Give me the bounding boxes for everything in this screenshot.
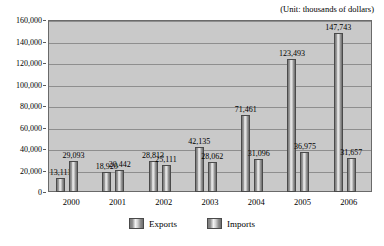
bar-group: 71,46131,096 [233,20,279,192]
y-axis-tick-label: 100,000 [16,80,42,89]
bar-exports-2001[interactable] [102,172,111,192]
bar-value-label: 147,743 [325,23,351,32]
bar-imports-2003[interactable] [208,162,217,192]
x-axis: 2000200120022003200420052006 [48,193,372,209]
bar-value-label: 28,062 [201,152,223,161]
y-axis-tick-label: 20,000 [20,166,42,175]
y-axis-tick-mark [43,85,46,86]
y-axis-tick-mark [43,63,46,64]
y-axis-tick-label: 120,000 [16,59,42,68]
bar-imports-2006[interactable] [347,158,356,192]
bar-group: 42,13528,062 [187,20,233,192]
y-axis-tick-label: 40,000 [20,145,42,154]
bar-value-label: 36,975 [294,142,316,151]
x-axis-tick-label: 2004 [248,197,265,207]
bar-imports-2000[interactable] [69,161,78,192]
bar-group: 28,81325,111 [141,20,187,192]
y-axis-tick-mark [43,20,46,21]
bar-group: 13,11129,093 [48,20,94,192]
legend-swatch-imports [207,218,222,229]
y-axis-tick-mark [43,106,46,107]
y-axis-tick-mark [43,42,46,43]
unit-note: (Unit: thousands of dollars) [280,4,374,14]
bar-value-label: 31,657 [340,148,362,157]
legend-label-exports: Exports [149,219,177,229]
bar-value-label: 123,493 [279,49,305,58]
y-axis-tick-mark [43,171,46,172]
y-axis-tick-mark [43,128,46,129]
x-axis-tick-label: 2002 [155,197,172,207]
bar-value-label: 71,461 [235,105,257,114]
y-axis-tick-label: 80,000 [20,102,42,111]
bar-imports-2002[interactable] [162,165,171,192]
y-axis: 020,00040,00060,00080,000100,000120,0001… [0,20,46,192]
y-axis-tick-mark [43,192,46,193]
chart-container: (Unit: thousands of dollars) 020,00040,0… [0,0,384,246]
bar-group: 123,49336,975 [279,20,325,192]
bar-value-label: 25,111 [155,155,176,164]
y-axis-tick-mark [43,149,46,150]
y-axis-tick-label: 140,000 [16,37,42,46]
bar-exports-2002[interactable] [149,161,158,192]
legend-item-imports[interactable]: Imports [207,218,255,229]
bar-exports-2005[interactable] [287,59,296,192]
bar-imports-2004[interactable] [254,159,263,192]
x-axis-tick-label: 2000 [63,197,80,207]
x-axis-tick-label: 2001 [109,197,126,207]
bar-imports-2001[interactable] [115,170,124,192]
x-axis-tick-label: 2005 [294,197,311,207]
y-axis-tick-label: 0 [38,188,42,197]
bar-group: 147,74331,657 [326,20,372,192]
bar-value-label: 31,096 [248,149,270,158]
chart-legend: Exports Imports [0,218,384,229]
bar-group: 18,92020,442 [94,20,140,192]
legend-label-imports: Imports [227,219,255,229]
legend-item-exports[interactable]: Exports [129,218,177,229]
x-axis-tick-label: 2006 [340,197,357,207]
bar-value-label: 20,442 [109,160,131,169]
bar-exports-2000[interactable] [56,178,65,192]
bar-value-label: 13,111 [50,168,71,177]
bar-value-label: 42,135 [188,137,210,146]
bar-imports-2005[interactable] [300,152,309,192]
y-axis-tick-label: 60,000 [20,123,42,132]
x-axis-tick-label: 2003 [202,197,219,207]
y-axis-tick-label: 160,000 [16,16,42,25]
bars-layer: 13,11129,09318,92020,44228,81325,11142,1… [48,20,372,192]
bar-exports-2006[interactable] [334,33,343,192]
bar-value-label: 29,093 [63,151,85,160]
legend-swatch-exports [129,218,144,229]
